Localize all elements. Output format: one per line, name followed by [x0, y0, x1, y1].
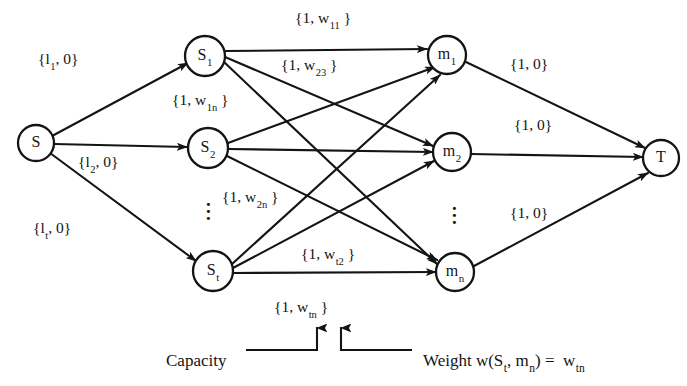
label-mn-T: {1, 0} [510, 205, 548, 221]
edge-s-to-st [50, 153, 196, 261]
capacity-legend-label: Capacity [166, 352, 226, 369]
figure-canvas: SS1S2Stm1m2mnT {l1, 0}{l2, 0}{lt, 0}{1, … [0, 0, 687, 386]
capacity-pointer [247, 328, 317, 350]
node-label-m1: m1 [427, 46, 467, 65]
node-label-t: T [641, 149, 681, 165]
edge-s-to-s1 [52, 63, 188, 136]
edge-s2-to-m1 [228, 67, 435, 143]
weight-legend-label: Weight w(St, mn) = wtn [423, 352, 585, 373]
node-label-s1: S1 [185, 47, 225, 66]
edge-s1-to-mn [224, 62, 437, 264]
edge-s1-to-m1 [225, 49, 427, 51]
label-St-m2: {1, wt2 } [301, 246, 355, 266]
node-label-st: St [193, 262, 233, 281]
label-S-S1: {l1, 0} [38, 51, 78, 71]
target-ellipsis: ... [452, 200, 457, 221]
network-flow-diagram [0, 0, 687, 386]
node-label-m2: m2 [432, 143, 472, 162]
legend-pointer-layer [247, 328, 411, 350]
label-m2-T: {1, 0} [514, 117, 552, 133]
edge-layer [50, 49, 648, 273]
node-label-mn: mn [435, 263, 475, 282]
label-S-St: {lt, 0} [33, 220, 71, 240]
label-S-S2: {l2, 0} [78, 154, 118, 174]
label-S2-mn: {1, w2n } [222, 189, 279, 209]
weight-pointer [341, 328, 411, 350]
label-m1-T: {1, 0} [510, 56, 548, 72]
source-ellipsis: ... [206, 196, 211, 217]
edge-m1-to-t [466, 62, 645, 148]
label-St-mn: {1, wtn } [274, 299, 328, 319]
label-S2-m1: {1, w23 } [281, 57, 338, 77]
node-label-s: S [16, 134, 56, 150]
node-label-s2: S2 [188, 139, 228, 158]
edge-st-to-mn [233, 272, 436, 273]
edge-m2-to-t [471, 154, 643, 157]
label-S1-m1: {1, w11 } [295, 10, 351, 30]
label-S1-mn: {1, w1n } [172, 92, 229, 112]
edge-mn-to-t [474, 173, 648, 266]
edge-s2-to-m2 [228, 149, 433, 152]
edge-s-to-s2 [54, 144, 187, 147]
